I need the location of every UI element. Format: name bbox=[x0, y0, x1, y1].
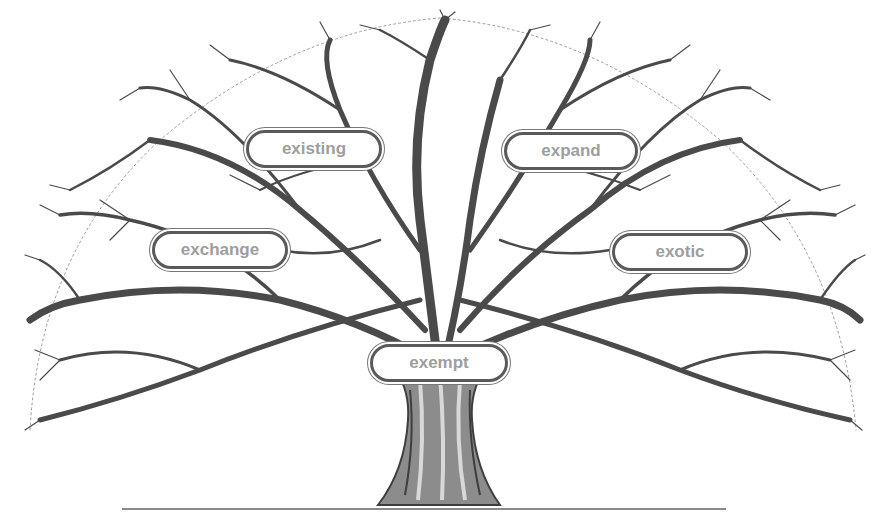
label-exempt: exempt bbox=[370, 344, 508, 382]
label-text: expand bbox=[541, 141, 601, 161]
label-exchange: exchange bbox=[152, 231, 288, 269]
ground-line bbox=[122, 508, 726, 510]
label-expand: expand bbox=[504, 132, 638, 170]
label-text: existing bbox=[282, 139, 346, 159]
label-existing: existing bbox=[246, 130, 382, 168]
label-exotic: exotic bbox=[612, 233, 748, 271]
label-text: exempt bbox=[409, 353, 469, 373]
label-text: exotic bbox=[655, 242, 704, 262]
tree-trunk bbox=[378, 370, 500, 505]
tree-illustration bbox=[0, 0, 878, 524]
label-text: exchange bbox=[181, 240, 259, 260]
